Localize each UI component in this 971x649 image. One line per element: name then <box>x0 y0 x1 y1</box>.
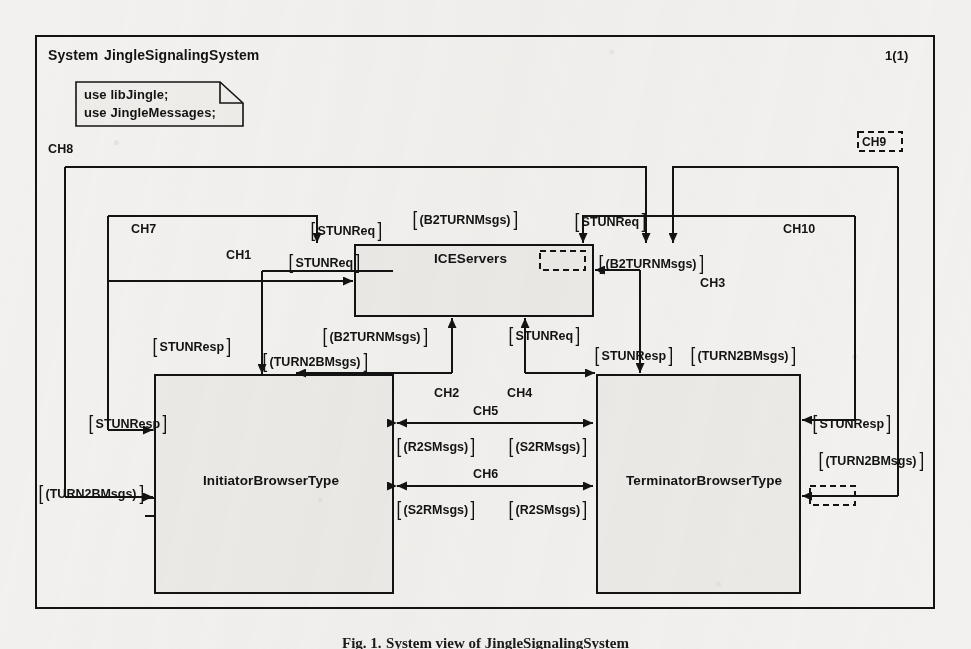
bracket-left: [ <box>818 452 823 469</box>
bracket-right: ] <box>471 438 476 455</box>
bracket-right: ] <box>139 485 144 502</box>
system-keyword: System <box>48 48 98 62</box>
signal-s2r-lower: [ (S2RMsgs) ] <box>396 501 476 518</box>
channel-label-ch3: CH3 <box>700 277 725 290</box>
signal-s2r-upper: [ (S2RMsgs) ] <box>508 438 588 455</box>
signal-r2s-upper: [ (R2SMsgs) ] <box>396 438 476 455</box>
bracket-right: ] <box>919 452 924 469</box>
signal-stunresp-right-upper: [ STUNResp ] <box>594 347 674 364</box>
bracket-left: [ <box>262 353 267 370</box>
figure-caption: Fig. 1. System view of JingleSignalingSy… <box>0 634 971 649</box>
bracket-left: [ <box>412 211 417 228</box>
signal-turn2b-right-upper: [ (TURN2BMsgs) ] <box>690 347 796 364</box>
bracket-left: [ <box>508 501 513 518</box>
signal-stunresp-left-upper: [ STUNResp ] <box>152 338 232 355</box>
bracket-left: [ <box>598 255 603 272</box>
bracket-left: [ <box>396 501 401 518</box>
signal-turn2b-far-left: [ (TURN2BMsgs) ] <box>38 485 144 502</box>
signal-b2turn-right: [ (B2TURNMsgs) ] <box>598 255 704 272</box>
bracket-right: ] <box>576 327 581 344</box>
channel-label-ch8: CH8 <box>48 143 73 156</box>
signal-r2s-lower: [ (R2SMsgs) ] <box>508 501 588 518</box>
bracket-left: [ <box>38 485 43 502</box>
bracket-right: ] <box>642 213 647 230</box>
figure-caption-prefix: Fig. 1. <box>342 635 382 649</box>
channel-label-ch5: CH5 <box>473 405 498 418</box>
bracket-right: ] <box>471 501 476 518</box>
arrowhead-ch6-left <box>397 482 407 491</box>
signal-stunresp-far-left: [ STUNResp ] <box>88 415 168 432</box>
signal-b2turn-below: [ (B2TURNMsgs) ] <box>322 328 428 345</box>
bracket-left: [ <box>508 327 513 344</box>
bracket-left: [ <box>594 347 599 364</box>
signal-turn2b-far-right: [ (TURN2BMsgs) ] <box>818 452 924 469</box>
bracket-right: ] <box>423 328 428 345</box>
bracket-left: [ <box>310 222 315 239</box>
channel-label-ch1: CH1 <box>226 249 251 262</box>
bracket-right: ] <box>791 347 796 364</box>
bracket-left: [ <box>508 438 513 455</box>
bracket-right: ] <box>699 255 704 272</box>
bracket-left: [ <box>288 254 293 271</box>
block-label-initiator: InitiatorBrowserType <box>203 474 339 488</box>
signal-turn2b-left-of-init: [ (TURN2BMsgs) ] <box>262 353 368 370</box>
channel-label-ch4: CH4 <box>507 387 532 400</box>
note-line-1: use libJingle; <box>84 88 168 101</box>
channel-label-ch7: CH7 <box>131 223 156 236</box>
signal-stunreq-top-right: [ STUNReq ] <box>574 213 647 230</box>
channel-label-ch2: CH2 <box>434 387 459 400</box>
system-name: JingleSignalingSystem <box>104 48 259 62</box>
bracket-right: ] <box>583 501 588 518</box>
bracket-right: ] <box>227 338 232 355</box>
bracket-right: ] <box>583 438 588 455</box>
bracket-right: ] <box>356 254 361 271</box>
block-label-iceservers: ICEServers <box>434 252 507 266</box>
bracket-left: [ <box>574 213 579 230</box>
bracket-right: ] <box>363 353 368 370</box>
channel-label-ch10: CH10 <box>783 223 815 236</box>
signal-stunreq-left: [ STUNReq ] <box>288 254 361 271</box>
bracket-left: [ <box>322 328 327 345</box>
block-label-terminator: TerminatorBrowserType <box>626 474 782 488</box>
figure-caption-text: System view of JingleSignalingSystem <box>386 635 629 649</box>
channel-label-ch9: CH9 <box>862 136 886 148</box>
arrowhead-ch5-left <box>397 419 407 428</box>
bracket-left: [ <box>152 338 157 355</box>
signal-stunreq-top-left: [ STUNReq ] <box>310 222 383 239</box>
bracket-left: [ <box>812 415 817 432</box>
signal-stunresp-far-right: [ STUNResp ] <box>812 415 892 432</box>
bracket-right: ] <box>887 415 892 432</box>
bracket-left: [ <box>88 415 93 432</box>
channel-label-ch6: CH6 <box>473 468 498 481</box>
bracket-right: ] <box>669 347 674 364</box>
bracket-left: [ <box>690 347 695 364</box>
bracket-right: ] <box>378 222 383 239</box>
page-indicator: 1(1) <box>885 49 909 62</box>
diagram-page: System JingleSignalingSystem 1(1) use li… <box>0 0 971 649</box>
signal-b2turn-top: [ (B2TURNMsgs) ] <box>412 211 518 228</box>
bracket-left: [ <box>396 438 401 455</box>
bracket-right: ] <box>163 415 168 432</box>
bracket-right: ] <box>513 211 518 228</box>
note-line-2: use JingleMessages; <box>84 106 216 119</box>
signal-stunreq-below: [ STUNReq ] <box>508 327 581 344</box>
